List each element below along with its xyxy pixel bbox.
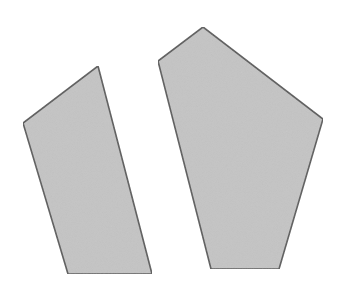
- diagram-canvas: [0, 0, 343, 286]
- quadrilateral-shape: [23, 66, 152, 274]
- pentagon-shape: [158, 27, 323, 269]
